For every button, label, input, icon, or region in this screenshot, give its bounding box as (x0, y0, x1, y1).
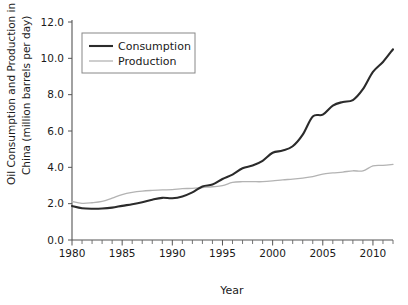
legend: ConsumptionProduction (82, 33, 195, 73)
x-tick-group: 1980198519901995200020052010 (59, 240, 393, 259)
chart-container: Oil Consumption and Production in China … (0, 0, 408, 305)
x-tick-label: 2010 (360, 247, 387, 259)
y-tick-label: 10.0 (41, 52, 64, 64)
y-axis-label-line-2: China (million barrels per day) (20, 16, 32, 175)
y-tick-group: 0.02.04.06.08.010.012.0 (41, 16, 72, 246)
x-tick-label: 2000 (259, 247, 286, 259)
y-tick-label: 6.0 (47, 125, 64, 137)
y-tick-label: 4.0 (47, 161, 64, 173)
y-tick-label: 12.0 (41, 16, 64, 28)
x-tick-label: 1990 (159, 247, 186, 259)
x-tick-label: 2005 (309, 247, 336, 259)
y-axis-label-line-1: Oil Consumption and Production in (5, 3, 17, 185)
legend-label-consumption: Consumption (118, 40, 191, 53)
y-axis-label-group: Oil Consumption and Production in China … (5, 3, 32, 185)
x-tick-label: 1995 (209, 247, 236, 259)
series-line-production (72, 164, 393, 203)
line-chart: Oil Consumption and Production in China … (0, 0, 408, 305)
x-axis-label: Year (219, 284, 244, 297)
legend-label-production: Production (118, 55, 177, 68)
x-tick-label: 1985 (109, 247, 136, 259)
y-tick-label: 0.0 (47, 234, 64, 246)
x-tick-label: 1980 (59, 247, 86, 259)
y-tick-label: 2.0 (47, 197, 64, 209)
y-tick-label: 8.0 (47, 88, 64, 100)
